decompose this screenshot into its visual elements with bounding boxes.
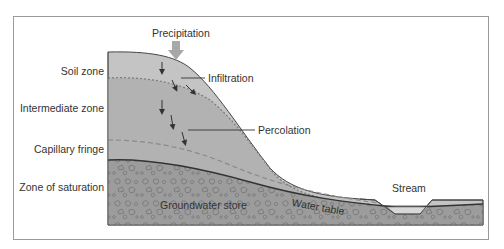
zone-label-saturation: Zone of saturation <box>19 181 104 193</box>
zone-label-capillary: Capillary fringe <box>34 143 104 155</box>
percolation-label: Percolation <box>258 124 311 136</box>
groundwater-store-label: Groundwater store <box>160 199 247 211</box>
stream-label: Stream <box>392 182 426 194</box>
infiltration-label: Infiltration <box>208 72 254 84</box>
zone-label-soil: Soil zone <box>61 65 104 77</box>
hydrology-cross-section <box>0 0 504 249</box>
precipitation-label: Precipitation <box>152 27 210 39</box>
precipitation-arrow-icon <box>168 41 184 60</box>
zone-label-intermediate: Intermediate zone <box>20 102 104 114</box>
